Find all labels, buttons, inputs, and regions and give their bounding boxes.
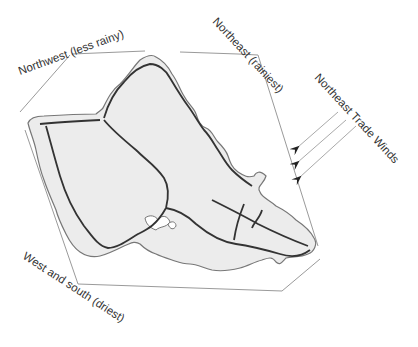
label-northeast: Northeast (rainiest) (211, 15, 287, 95)
oahu-rainfall-diagram: Northwest (less rainy) Northeast (rainie… (0, 0, 418, 347)
frame-edge-southeast (282, 259, 320, 291)
label-trade-winds: Northeast Trade Winds (313, 71, 402, 165)
trade-wind-arrows (298, 112, 356, 177)
frame-edge-south (78, 284, 282, 291)
wind-arrow-1 (298, 112, 338, 147)
label-west-south: West and south (driest) (21, 250, 127, 325)
wind-arrow-3 (300, 126, 356, 177)
